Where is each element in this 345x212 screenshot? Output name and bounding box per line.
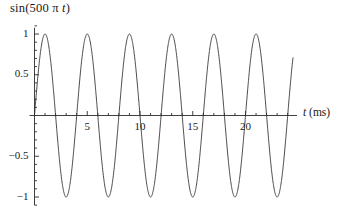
y-tick-label: 0.5 — [0, 67, 29, 79]
x-tick-label: 10 — [120, 120, 160, 132]
x-tick-label: 15 — [173, 120, 213, 132]
x-axis-label-units: (ms) — [306, 106, 330, 118]
x-axis-label: t (ms) — [303, 106, 330, 118]
sine-plot-figure: sin(500 π t) t (ms) 5101520−1−0.50.51 — [0, 0, 345, 212]
y-tick-label: 1 — [0, 27, 29, 39]
x-tick-label: 20 — [226, 120, 266, 132]
y-tick-label: −1 — [0, 190, 29, 202]
plot-canvas — [0, 0, 345, 212]
x-tick-label: 5 — [67, 120, 107, 132]
y-tick-label: −0.5 — [0, 149, 29, 161]
